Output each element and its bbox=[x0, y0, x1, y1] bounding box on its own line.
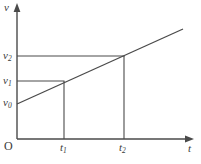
x-tick-label-t1: t1 bbox=[60, 142, 67, 153]
y-axis-label: v bbox=[4, 2, 9, 13]
velocity-time-graph-figure: v v2 v1 v0 O t1 t2 t bbox=[0, 0, 201, 164]
y-tick-label-v2-sub: 2 bbox=[8, 54, 12, 63]
y-tick-label-v0-sub: 0 bbox=[8, 101, 12, 110]
y-tick-label-v1: v1 bbox=[3, 75, 12, 86]
graph-canvas bbox=[0, 0, 201, 164]
y-tick-label-v1-sub: 1 bbox=[8, 79, 12, 88]
origin-label: O bbox=[4, 140, 13, 152]
velocity-line bbox=[17, 29, 183, 104]
y-tick-label-v2: v2 bbox=[3, 50, 12, 61]
y-axis-arrowhead bbox=[14, 3, 21, 12]
x-axis-label: t bbox=[188, 143, 191, 154]
y-tick-label-v0: v0 bbox=[3, 97, 12, 108]
x-tick-label-t2: t2 bbox=[119, 142, 126, 153]
x-tick-label-t1-sub: 1 bbox=[63, 146, 67, 155]
x-tick-label-t2-sub: 2 bbox=[122, 146, 126, 155]
